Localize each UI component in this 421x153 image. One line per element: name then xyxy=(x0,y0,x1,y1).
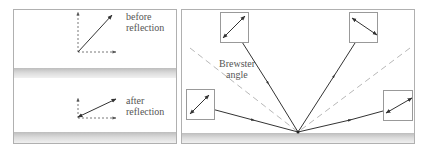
brewster-label-line1: Brewster xyxy=(219,58,256,69)
surface-band-top xyxy=(14,68,176,78)
after-label-line1: after xyxy=(126,95,145,106)
surface-band-bottom xyxy=(14,132,176,143)
brewster-label-line2: angle xyxy=(226,69,248,80)
right-panel-border xyxy=(182,10,415,144)
polarization-box-bottom-left xyxy=(187,90,215,120)
right-panel: Brewster angle xyxy=(182,10,415,144)
after-label-line2: reflection xyxy=(126,106,164,117)
polarization-box-bottom-right xyxy=(384,91,413,121)
polarization-box-top-left xyxy=(221,13,249,43)
polarization-box-top-right xyxy=(350,13,378,43)
before-label-line1: before xyxy=(126,11,152,22)
before-label-line2: reflection xyxy=(126,22,164,33)
reflection-point xyxy=(297,131,300,134)
diagram-canvas: before reflection after reflection Brews… xyxy=(0,0,421,153)
left-panel: before reflection after reflection xyxy=(14,10,177,144)
reflecting-surface xyxy=(182,133,414,143)
